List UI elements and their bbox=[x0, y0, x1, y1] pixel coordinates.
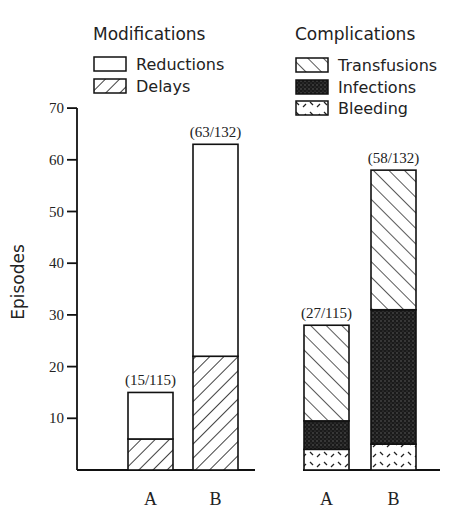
y-tick-label: 30 bbox=[49, 307, 64, 323]
legend-swatch-delays bbox=[94, 79, 126, 93]
y-tick-label: 50 bbox=[49, 204, 64, 220]
bar-segment-transfusions bbox=[371, 170, 416, 310]
legend-swatch-transfusions bbox=[296, 58, 328, 72]
legend-label-bleeding: Bleeding bbox=[338, 99, 408, 118]
y-tick-label: 70 bbox=[49, 100, 64, 116]
x-category-label: A bbox=[144, 489, 157, 509]
bar-segment-delays bbox=[128, 439, 173, 470]
y-axis-label: Episodes bbox=[8, 244, 28, 320]
bar-segment-delays bbox=[193, 356, 238, 470]
bar-annotation: (15/115) bbox=[125, 372, 176, 389]
chart: Modifications Complications Reductions D… bbox=[0, 0, 466, 519]
legend-title-complications: Complications bbox=[295, 24, 415, 44]
legend-swatch-bleeding bbox=[296, 101, 328, 115]
bar-modifications-B: (63/132)B bbox=[190, 124, 242, 509]
bar-segment-infections bbox=[304, 421, 349, 449]
bar-complications-B: (58/132)B bbox=[368, 150, 420, 509]
bar-segment-reductions bbox=[193, 144, 238, 356]
bar-segment-bleeding bbox=[304, 449, 349, 470]
x-category-label: B bbox=[209, 489, 221, 509]
y-tick-label: 40 bbox=[49, 255, 64, 271]
bar-modifications-A: (15/115)A bbox=[125, 372, 176, 509]
y-tick-label: 10 bbox=[49, 410, 64, 426]
bar-annotation: (58/132) bbox=[368, 150, 420, 167]
bar-segment-reductions bbox=[128, 392, 173, 439]
bars: (15/115)A(63/132)B(27/115)A(58/132)B bbox=[125, 124, 419, 509]
legend-swatch-infections bbox=[296, 80, 328, 94]
bar-segment-transfusions bbox=[304, 325, 349, 421]
bar-segment-infections bbox=[371, 310, 416, 444]
legend-label-delays: Delays bbox=[136, 77, 190, 96]
legend-label-transfusions: Transfusions bbox=[337, 56, 437, 75]
legend-label-reductions: Reductions bbox=[136, 55, 224, 74]
x-category-label: A bbox=[320, 489, 333, 509]
legend-modifications: Reductions Delays bbox=[94, 55, 224, 96]
y-tick-label: 60 bbox=[49, 152, 64, 168]
x-category-label: B bbox=[387, 489, 399, 509]
legend-swatch-reductions bbox=[94, 57, 126, 71]
bar-segment-bleeding bbox=[371, 444, 416, 470]
bar-annotation: (27/115) bbox=[301, 305, 352, 322]
bar-complications-A: (27/115)A bbox=[301, 305, 352, 509]
bar-annotation: (63/132) bbox=[190, 124, 242, 141]
legend-title-modifications: Modifications bbox=[93, 24, 206, 44]
legend-label-infections: Infections bbox=[338, 78, 416, 97]
legend-complications: Transfusions Infections Bleeding bbox=[296, 56, 437, 118]
y-tick-label: 20 bbox=[49, 359, 64, 375]
